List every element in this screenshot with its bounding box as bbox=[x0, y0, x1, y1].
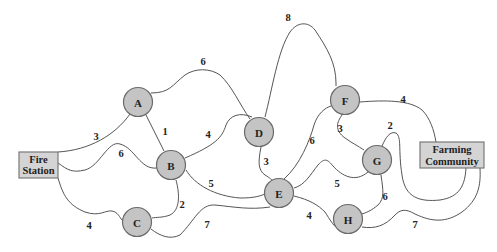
weight-a-d: 6 bbox=[200, 56, 205, 67]
edge-e-h bbox=[294, 196, 335, 226]
fire-station-box: Fire Station bbox=[19, 152, 58, 178]
fire-station-label-line2: Station bbox=[22, 165, 54, 176]
node-b-label: B bbox=[167, 160, 175, 172]
node-h: H bbox=[334, 205, 363, 234]
farming-community-label-line1: Farming bbox=[432, 144, 472, 155]
weight-b-e: 5 bbox=[208, 178, 213, 189]
weight-b-c: 2 bbox=[179, 199, 184, 210]
node-e-label: E bbox=[275, 188, 282, 200]
edge-b-d bbox=[185, 115, 252, 158]
node-g-label: G bbox=[373, 155, 382, 167]
node-h-label: H bbox=[344, 214, 353, 226]
weight-g-h: 6 bbox=[382, 191, 387, 202]
edge-fs-c bbox=[58, 178, 122, 220]
fire-station-label-line1: Fire bbox=[29, 154, 48, 165]
node-e: E bbox=[265, 179, 294, 208]
edge-b-e bbox=[186, 170, 265, 198]
node-g: G bbox=[363, 146, 392, 175]
farming-community-label-line2: Community bbox=[425, 156, 479, 167]
node-d: D bbox=[245, 118, 274, 147]
node-f-label: F bbox=[342, 95, 349, 107]
node-f: F bbox=[331, 86, 360, 115]
node-c: C bbox=[123, 208, 152, 237]
edge-h-fc bbox=[362, 168, 480, 228]
node-b: B bbox=[157, 151, 186, 180]
weight-g-fc: 2 bbox=[387, 120, 392, 131]
edge-e-f bbox=[284, 106, 331, 179]
weight-a-b: 1 bbox=[162, 126, 167, 137]
node-d-label: D bbox=[255, 127, 263, 139]
edge-fs-b bbox=[58, 144, 157, 172]
edge-c-e bbox=[151, 205, 270, 237]
weight-d-f: 8 bbox=[285, 12, 290, 23]
edge-e-g bbox=[294, 160, 368, 188]
edge-g-h bbox=[362, 175, 383, 214]
network-diagram: 3 6 4 1 6 4 2 5 7 3 8 6 5 4 3 4 2 6 7 Fi… bbox=[0, 0, 497, 252]
weight-d-e: 3 bbox=[263, 156, 268, 167]
weight-f-g: 3 bbox=[337, 123, 342, 134]
edge-a-d bbox=[151, 70, 250, 119]
edge-d-f bbox=[265, 24, 336, 117]
weight-fs-a: 3 bbox=[93, 131, 98, 142]
node-c-label: C bbox=[133, 217, 141, 229]
weight-e-h: 4 bbox=[306, 210, 312, 221]
node-a-label: A bbox=[134, 97, 142, 109]
weight-b-d: 4 bbox=[205, 129, 211, 140]
weight-f-fc: 4 bbox=[400, 94, 406, 105]
weight-e-f: 6 bbox=[309, 135, 314, 146]
weight-fs-c: 4 bbox=[86, 220, 92, 231]
node-a: A bbox=[124, 88, 153, 117]
weight-h-fc: 7 bbox=[412, 219, 417, 230]
edge-a-b bbox=[146, 115, 164, 151]
weight-c-e: 7 bbox=[204, 219, 209, 230]
weight-e-g: 5 bbox=[334, 178, 339, 189]
edge-b-c bbox=[152, 180, 178, 218]
weight-fs-b: 6 bbox=[118, 148, 123, 159]
farming-community-box: Farming Community bbox=[420, 142, 484, 168]
